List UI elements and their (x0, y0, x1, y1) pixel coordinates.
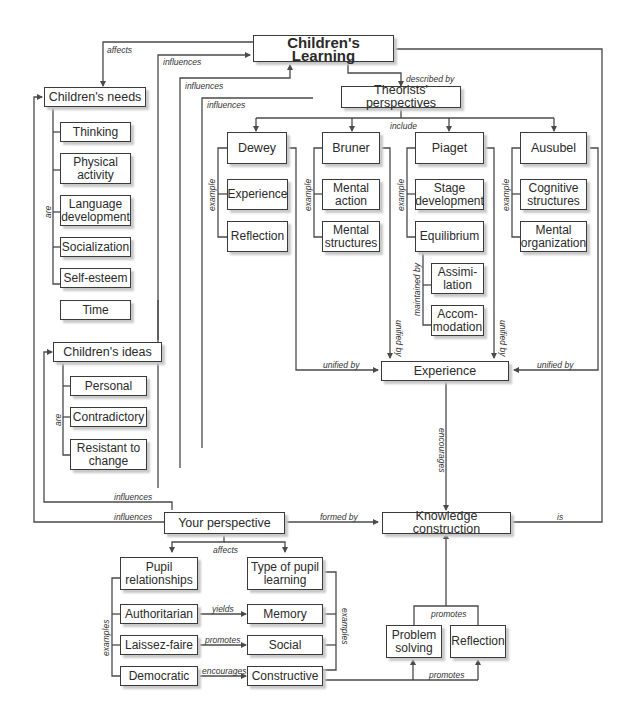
node-democratic: Democratic (120, 666, 198, 686)
label-promotes-top: promotes (431, 609, 466, 619)
node-dewey-experience: Experience (227, 179, 288, 210)
node-need-socialization: Socialization (60, 237, 131, 257)
node-bruner-mental-action: Mental action (322, 179, 380, 210)
concept-map-canvas: Children's Learning Theorists' perspecti… (0, 0, 637, 723)
node-ausubel: Ausubel (520, 132, 587, 164)
node-childrens-needs: Children's needs (44, 87, 146, 107)
node-reflection: Reflection (450, 625, 506, 658)
label-examples-left: examples (101, 620, 111, 656)
node-need-physical-activity: Physical activity (60, 153, 131, 184)
node-need-time: Time (60, 300, 131, 320)
node-piaget: Piaget (415, 132, 484, 164)
label-are-ideas: are (53, 414, 63, 426)
node-laissez-faire: Laissez-faire (120, 635, 198, 655)
label-example-dewey: example (207, 179, 217, 211)
node-piaget-accommodation: Accom-modation (431, 305, 484, 336)
label-include: include (390, 121, 417, 131)
node-bruner-mental-structures: Mental structures (322, 221, 380, 252)
node-dewey-reflection: Reflection (227, 221, 288, 252)
label-unified-by-right: unified by (537, 360, 573, 370)
label-influences-ideas: influences (114, 492, 152, 502)
label-affects-needs: affects (107, 45, 132, 55)
label-formed-by: formed by (320, 512, 358, 522)
label-yields: yields (212, 604, 234, 614)
node-piaget-equilibrium: Equilibrium (415, 221, 484, 252)
label-promotes-social: promotes (205, 635, 240, 645)
label-promotes-bottom: promotes (429, 670, 464, 680)
node-authoritarian: Authoritarian (120, 604, 198, 624)
node-social: Social (247, 635, 323, 655)
label-maintained-by: maintained by (412, 263, 422, 316)
node-childrens-ideas: Children's ideas (53, 342, 162, 362)
node-piaget-stage-development: Stage development (415, 179, 484, 210)
node-problem-solving: Problem solving (386, 625, 442, 658)
label-described-by: described by (406, 74, 454, 84)
label-example-bruner: example (303, 179, 313, 211)
label-example-piaget: example (396, 179, 406, 211)
node-need-thinking: Thinking (60, 122, 131, 142)
node-childrens-learning: Children's Learning (253, 35, 394, 62)
node-theorists-perspectives: Theorists' perspectives (341, 86, 461, 108)
label-encourages-experience: encourages (437, 428, 447, 472)
label-unified-by-bruner: unified by (394, 320, 404, 356)
label-example-ausubel: example (501, 179, 511, 211)
label-examples-right: examples (340, 608, 350, 644)
node-need-self-esteem: Self-esteem (60, 268, 131, 288)
node-idea-resistant-to-change: Resistant to change (70, 439, 147, 470)
node-need-language-development: Language development (60, 195, 131, 226)
label-are-needs: are (43, 206, 53, 218)
label-influences-2: influences (185, 81, 223, 91)
node-constructive: Constructive (247, 666, 323, 686)
label-influences-3: influences (207, 100, 245, 110)
node-experience: Experience (381, 361, 509, 381)
label-encourages-constructive: encourages (202, 666, 246, 676)
label-affects-pupil: affects (213, 545, 238, 555)
node-bruner: Bruner (322, 132, 380, 164)
label-influences-needs: influences (114, 512, 152, 522)
node-ausubel-mental-organization: Mental organization (520, 221, 587, 252)
node-your-perspective: Your perspective (164, 512, 285, 534)
label-influences-1: influences (163, 57, 201, 67)
node-idea-personal: Personal (70, 376, 147, 396)
node-piaget-assimilation: Assimi-lation (431, 263, 484, 294)
node-idea-contradictory: Contradictory (70, 407, 147, 427)
label-unified-by-piaget: unified by (498, 320, 508, 356)
node-knowledge-construction: Knowledge construction (382, 512, 511, 534)
label-is: is (557, 512, 563, 522)
node-dewey: Dewey (227, 132, 287, 164)
node-ausubel-cognitive-structures: Cognitive structures (520, 179, 587, 210)
node-pupil-relationships: Pupil relationships (120, 557, 198, 590)
label-unified-by-left: unified by (323, 360, 359, 370)
node-type-of-pupil-learning: Type of pupil learning (247, 557, 323, 590)
node-memory: Memory (247, 604, 323, 624)
